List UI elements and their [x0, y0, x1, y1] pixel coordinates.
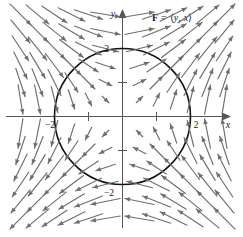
- field-arrow-head: [115, 31, 121, 36]
- field-arrow-head: [173, 90, 177, 96]
- field-arrow-head: [24, 55, 29, 61]
- field-arrow-head: [149, 27, 155, 32]
- field-arrow-head: [97, 15, 103, 19]
- field-arrow-head: [73, 87, 78, 93]
- field-arrow-head: [170, 124, 174, 130]
- field-arrow-head: [125, 197, 131, 202]
- field-arrow-head: [91, 218, 97, 223]
- field-arrow-head: [225, 68, 229, 74]
- x-axis-label: x: [225, 119, 231, 130]
- field-arrow-head: [125, 215, 131, 220]
- field-arrow-head: [149, 11, 155, 16]
- field-arrow-head: [21, 91, 25, 97]
- field-arrow-head: [130, 164, 136, 168]
- x-tick-label--2: −2: [45, 120, 55, 130]
- field-arrow-head: [224, 85, 229, 91]
- field-arrow-head: [142, 213, 148, 217]
- field-arrow-head: [219, 136, 223, 142]
- field-arrow-head: [93, 67, 99, 72]
- field-arrow-head: [61, 18, 67, 23]
- field-arrow-head: [42, 222, 48, 227]
- field-arrow-head: [74, 219, 80, 223]
- field-arrow-head: [20, 109, 25, 115]
- field-arrow-head: [216, 172, 221, 178]
- x-tick-label-2: 2: [194, 120, 199, 130]
- field-arrow-head: [12, 191, 17, 197]
- field-arrow-head: [207, 85, 212, 91]
- field-arrow-head: [96, 167, 102, 171]
- field-arrow-head: [110, 65, 116, 69]
- field-arrow-head: [144, 62, 150, 66]
- field-arrow-head: [228, 36, 233, 42]
- field-arrow-head: [203, 119, 208, 125]
- field-arrow-head: [71, 104, 75, 110]
- field-arrow-head: [33, 143, 38, 149]
- y-axis-label: y: [110, 8, 116, 19]
- field-arrow-head: [68, 138, 72, 144]
- field-arrow-head: [17, 143, 22, 149]
- field-arrow-head: [37, 109, 42, 115]
- field-arrow-head: [167, 141, 172, 147]
- field-arrow-head: [178, 210, 184, 215]
- field-arrow-head: [165, 9, 171, 13]
- field-arrow-head: [91, 201, 97, 206]
- plot-canvas: 2 −2 −2 2 x y: [0, 0, 243, 237]
- y-tick-label--2: −2: [104, 188, 114, 198]
- field-arrow-head: [15, 159, 19, 165]
- y-tick-label-2: 2: [104, 44, 109, 54]
- vector-field-figure: F = ⟨y, x⟩ 2 −2 −2 2 x y: [0, 0, 243, 237]
- field-arrow-head: [147, 161, 153, 166]
- field-arrow-head: [197, 6, 203, 11]
